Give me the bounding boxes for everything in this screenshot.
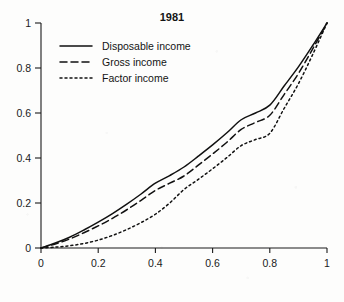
legend-label: Factor income	[102, 72, 169, 84]
axes-group	[41, 23, 327, 248]
y-tick-label: 1	[25, 17, 31, 29]
chart-title: 1981	[160, 11, 184, 23]
x-axis-ticks: 00.20.40.60.81	[38, 248, 330, 269]
series-line-dashed	[41, 23, 327, 248]
x-tick-label: 0	[38, 257, 44, 269]
x-tick-label: 0.4	[148, 257, 163, 269]
y-tick-label: 0.8	[16, 62, 31, 74]
legend-label: Gross income	[102, 56, 167, 68]
chart-canvas: 1981 00.20.40.60.81 00.20.40.60.81 Dispo…	[0, 0, 344, 302]
chart-legend: Disposable incomeGross incomeFactor inco…	[60, 40, 191, 84]
series-group	[41, 23, 327, 248]
y-tick-label: 0.4	[16, 152, 31, 164]
x-tick-label: 0.8	[262, 257, 277, 269]
y-tick-label: 0	[25, 242, 31, 254]
series-line-solid	[41, 23, 327, 248]
y-tick-label: 0.6	[16, 107, 31, 119]
series-line-dotted	[41, 23, 327, 248]
y-axis-ticks: 00.20.40.60.81	[16, 17, 41, 254]
legend-label: Disposable income	[102, 40, 191, 52]
x-tick-label: 0.6	[205, 257, 220, 269]
lorenz-curve-figure: 1981 00.20.40.60.81 00.20.40.60.81 Dispo…	[0, 0, 344, 302]
x-tick-label: 1	[324, 257, 330, 269]
y-tick-label: 0.2	[16, 197, 31, 209]
x-tick-label: 0.2	[91, 257, 106, 269]
